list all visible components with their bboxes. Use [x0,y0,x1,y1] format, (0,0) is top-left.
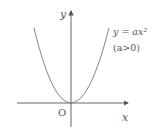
condition-label: (a>0) [113,42,140,53]
origin-label: O [58,107,66,118]
x-axis-label: x [122,111,129,124]
parabola-curve [34,28,109,103]
y-axis-label: y [59,8,67,21]
parabola-diagram: y x O y = ax² (a>0) [0,0,156,137]
equation-label: y = ax² [112,26,147,37]
